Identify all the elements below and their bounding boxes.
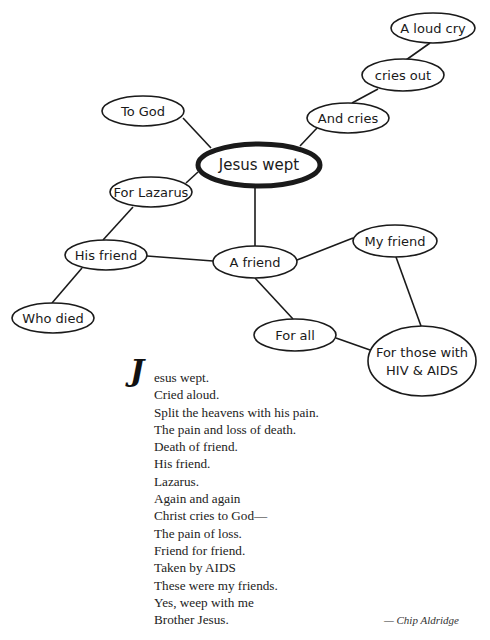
page: A loud crycries outAnd criesTo GodFor La…	[0, 0, 490, 640]
node-label: A friend	[229, 255, 280, 270]
node-jesus-wept: Jesus wept	[198, 144, 320, 186]
edge-a-friend-to-my-friend	[297, 238, 353, 260]
node-label: My friend	[364, 234, 425, 249]
node-for-those-with-hiv-aids: For those withHIV & AIDS	[368, 326, 476, 396]
node-label: HIV & AIDS	[386, 363, 458, 378]
poem-line-1: esus wept.	[154, 369, 319, 386]
edge-a-friend-to-for-all	[255, 278, 293, 319]
poem-line-7: Lazarus.	[154, 473, 319, 490]
poem-line-13: These were my friends.	[154, 577, 319, 594]
poem-line-5: Death of friend.	[154, 438, 319, 455]
poem-line-4: The pain and loss of death.	[154, 421, 319, 438]
node-a-friend: A friend	[213, 246, 297, 278]
poem-line-8: Again and again	[154, 490, 319, 507]
node-and-cries: And cries	[307, 103, 389, 133]
edge-for-lazarus-to-his-friend	[103, 207, 133, 240]
edge-jesus-wept-to-and-cries	[300, 128, 317, 146]
edge-his-friend-to-a-friend	[147, 256, 213, 261]
poem-line-10: The pain of loss.	[154, 525, 319, 542]
poem-line-12: Taken by AIDS	[154, 559, 319, 576]
edge-my-friend-to-for-those-with-hiv-aids	[396, 257, 421, 326]
node-label: Jesus wept	[218, 156, 300, 174]
node-label: A loud cry	[400, 21, 466, 36]
poem-line-15: Brother Jesus.	[154, 611, 319, 628]
edge-and-cries-to-cries-out	[352, 89, 378, 103]
node-ellipse	[368, 326, 476, 396]
poem-line-11: Friend for friend.	[154, 542, 319, 559]
node-label: For those with	[376, 345, 468, 360]
diagram-nodes: A loud crycries outAnd criesTo GodFor La…	[12, 13, 476, 396]
node-label: And cries	[318, 111, 379, 126]
word-web-diagram: A loud crycries outAnd criesTo GodFor La…	[0, 0, 490, 400]
node-label: cries out	[375, 68, 431, 83]
node-to-god: To God	[102, 96, 184, 126]
edge-for-all-to-for-those-with-hiv-aids	[336, 338, 370, 350]
poem: esus wept. Cried aloud. Split the heaven…	[154, 369, 319, 628]
poem-line-14: Yes, weep with me	[154, 594, 319, 611]
edge-cries-out-to-a-loud-cry	[406, 43, 430, 60]
node-label: Who died	[22, 311, 83, 326]
edge-jesus-wept-to-to-god	[183, 118, 211, 148]
diagram-edges	[52, 43, 430, 350]
edge-his-friend-to-who-died	[52, 268, 82, 303]
poem-line-9: Christ cries to God—	[154, 507, 319, 524]
edge-jesus-wept-to-for-lazarus	[186, 172, 198, 183]
poem-line-3: Split the heavens with his pain.	[154, 404, 319, 421]
poem-line-6: His friend.	[154, 455, 319, 472]
node-label: To God	[120, 104, 165, 119]
node-my-friend: My friend	[353, 225, 437, 257]
node-label: His friend	[75, 248, 137, 263]
node-for-lazarus: For Lazarus	[110, 177, 192, 207]
node-his-friend: His friend	[65, 240, 147, 270]
node-for-all: For all	[254, 319, 336, 351]
poem-line-2: Cried aloud.	[154, 386, 319, 403]
node-label: For all	[275, 328, 315, 343]
node-cries-out: cries out	[362, 59, 444, 91]
node-who-died: Who died	[12, 303, 94, 333]
poem-attribution: — Chip Aldridge	[384, 614, 459, 626]
poem-drop-cap: J	[130, 356, 144, 386]
node-a-loud-cry: A loud cry	[391, 13, 475, 43]
node-label: For Lazarus	[114, 185, 189, 200]
